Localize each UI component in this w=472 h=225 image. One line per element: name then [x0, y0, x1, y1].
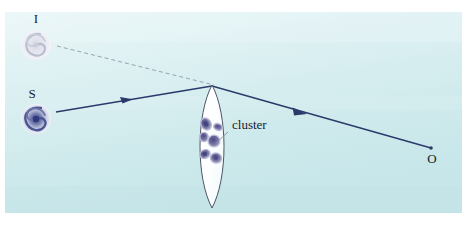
figure-root: I S O cluster: [0, 0, 472, 225]
cluster-galaxy: [200, 132, 208, 141]
source-galaxy-symbol: [21, 104, 51, 134]
cluster-galaxy-core: [214, 156, 218, 160]
cluster-label: cluster: [232, 117, 267, 132]
observer-point: [429, 146, 433, 150]
lensing-diagram-svg: I S O cluster: [0, 0, 472, 225]
observer-label: O: [427, 151, 436, 166]
image-label: I: [34, 11, 38, 26]
figure-panel: [5, 12, 462, 213]
source-label: S: [28, 86, 35, 101]
image-galaxy-symbol: [21, 30, 51, 60]
